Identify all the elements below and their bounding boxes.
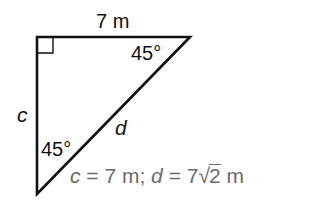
answer-d-equation: = 7 (163, 164, 199, 187)
answer-c-equation: = 7 m; (81, 164, 152, 187)
bottom-angle-label: 45° (41, 139, 71, 159)
square-root: √2 (198, 164, 220, 186)
answer-c-variable: c (70, 164, 81, 187)
answer-text: c = 7 m; d = 7√2 m (70, 164, 244, 186)
top-side-length-label: 7 m (96, 11, 129, 31)
left-side-variable-label: c (17, 104, 28, 125)
right-angle-marker (37, 37, 53, 53)
hypotenuse-variable-label: d (115, 117, 127, 138)
top-right-angle-label: 45° (131, 43, 161, 63)
radicand: 2 (209, 164, 221, 186)
answer-d-variable: d (151, 164, 163, 187)
triangle-figure: 7 m c d 45° 45° c = 7 m; d = 7√2 m (0, 0, 315, 210)
answer-unit: m (221, 164, 244, 187)
